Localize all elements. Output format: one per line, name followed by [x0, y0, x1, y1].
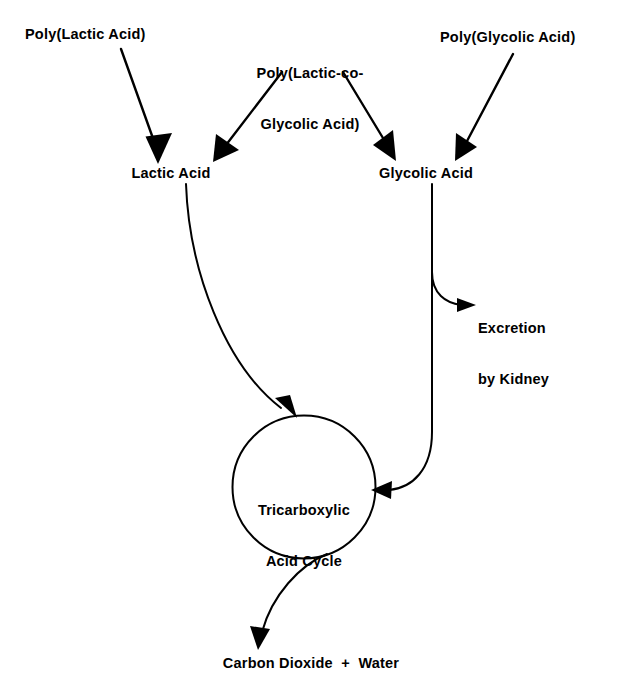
edge-glycolic-acid-to-excretion: [432, 272, 476, 312]
node-excretion-by-kidney: Excretion by Kidney: [478, 286, 608, 422]
node-tca-line2: Acid Cycle: [234, 553, 374, 570]
node-poly-lactic-acid: Poly(Lactic Acid): [25, 26, 175, 43]
node-tca-line1: Tricarboxylic: [234, 502, 374, 519]
node-tricarboxylic-acid-cycle: Tricarboxylic Acid Cycle: [234, 468, 374, 604]
node-poly-glycolic-acid: Poly(Glycolic Acid): [440, 29, 605, 46]
node-excretion-line1: Excretion: [478, 320, 608, 337]
edge-lactic-acid-to-tca: [186, 184, 297, 418]
node-lactic-acid: Lactic Acid: [111, 165, 231, 182]
node-carbon-dioxide-water: Carbon Dioxide + Water: [191, 655, 431, 672]
node-glycolic-acid: Glycolic Acid: [361, 165, 491, 182]
edge-pla-to-lactic-acid: [121, 49, 172, 164]
node-excretion-line2: by Kidney: [478, 371, 608, 388]
node-poly-lactic-co-glycolic-acid-line2: Glycolic Acid): [235, 116, 385, 133]
node-poly-lactic-co-glycolic-acid: Poly(Lactic-co- Glycolic Acid): [235, 31, 385, 167]
node-poly-lactic-co-glycolic-acid-line1: Poly(Lactic-co-: [235, 65, 385, 82]
degradation-pathway-diagram: Poly(Lactic Acid) Poly(Lactic-co- Glycol…: [0, 0, 627, 699]
edge-pga-to-glycolic-acid: [455, 54, 513, 161]
edge-glycolic-acid-stem: [371, 184, 432, 499]
